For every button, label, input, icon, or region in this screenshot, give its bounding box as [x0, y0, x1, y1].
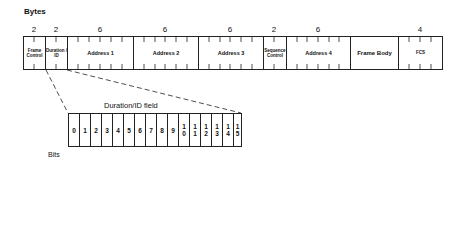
- duration-id-field-title: Duration/ID field: [104, 101, 158, 110]
- bit-cell-15: 15: [233, 113, 242, 147]
- bits-axis-label: Bits: [48, 151, 60, 158]
